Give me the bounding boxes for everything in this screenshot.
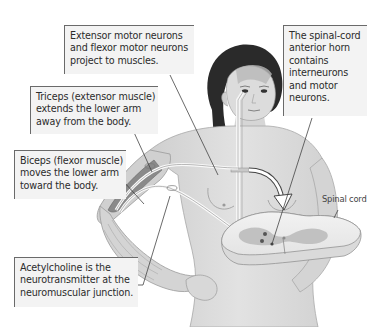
callout-biceps: Biceps (flexor muscle) moves the lower a… (14, 150, 126, 199)
callout-line: Acetylcholine is the (20, 262, 135, 274)
callout-line: away from the body. (36, 116, 155, 128)
spinal-cord-cross-section (222, 212, 361, 265)
callout-line: Extensor motor neurons (70, 30, 191, 42)
callout-line: Biceps (flexor muscle) (20, 155, 123, 167)
callout-line: The spinal-cord (289, 30, 364, 42)
callout-line: neuromuscular junction. (20, 287, 135, 299)
callout-line: toward the body. (20, 180, 123, 192)
callout-line: Triceps (extensor muscle) (36, 91, 155, 103)
callout-line: project to muscles. (70, 55, 191, 67)
figure: Extensor motor neurons and flexor motor … (0, 0, 383, 327)
callout-motor-neurons: Extensor motor neurons and flexor motor … (64, 25, 194, 74)
body (150, 104, 337, 327)
callout-anterior-horn: The spinal-cord anterior horn contains i… (283, 25, 367, 116)
label-spinal-cord: Spinal cord (322, 194, 367, 204)
callout-line: and motor (289, 80, 364, 92)
callout-line: moves the lower arm (20, 167, 123, 179)
callout-line: interneurons (289, 67, 364, 79)
callout-line: and flexor motor neurons (70, 42, 191, 54)
callout-line: neurons. (289, 92, 364, 104)
callout-line: anterior horn (289, 42, 364, 54)
callout-line: extends the lower arm (36, 103, 155, 115)
callout-acetylcholine: Acetylcholine is the neurotransmitter at… (14, 257, 138, 307)
callout-line: contains (289, 55, 364, 67)
callout-line: neurotransmitter at the (20, 274, 135, 286)
callout-triceps: Triceps (extensor muscle) extends the lo… (30, 86, 158, 134)
